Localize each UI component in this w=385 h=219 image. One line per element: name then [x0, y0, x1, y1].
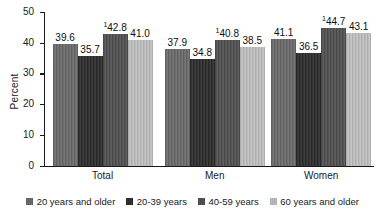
chart-legend: 20 years and older20-39 years40-59 years…: [0, 196, 385, 207]
bar-chart-figure: Percent 01020304050 39.635.7142.841.0Tot…: [0, 0, 385, 219]
bar-group: 41.136.5144.743.1Women: [268, 12, 374, 166]
legend-item[interactable]: 60 years and older: [270, 196, 359, 207]
bar: 41.1: [271, 39, 296, 165]
legend-label: 20-39 years: [137, 196, 187, 207]
y-tick-label: 10: [23, 130, 34, 140]
x-axis-category-label: Total: [44, 170, 161, 181]
bar-groups: 39.635.7142.841.0Total37.934.8140.838.5M…: [44, 12, 374, 166]
bar-value-label: 41.1: [274, 28, 293, 38]
bar-value-label: 34.8: [193, 48, 212, 58]
bar-value-label: 41.0: [130, 29, 149, 39]
legend-item[interactable]: 20-39 years: [126, 196, 187, 207]
plot-area: 01020304050 39.635.7142.841.0Total37.934…: [44, 12, 374, 167]
legend-item[interactable]: 20 years and older: [26, 196, 115, 207]
legend-label: 20 years and older: [37, 196, 116, 207]
bar-value-label: 144.7: [322, 17, 345, 27]
x-axis-line: [44, 166, 374, 167]
bar: 35.7: [78, 56, 103, 166]
y-tick-label: 0: [28, 161, 34, 171]
bar-group: 39.635.7142.841.0Total: [44, 12, 161, 166]
y-tick-label: 40: [23, 38, 34, 48]
bar-value-label: 38.5: [243, 36, 262, 46]
bar-value-label: 43.1: [349, 22, 368, 32]
bar-value-label: 37.9: [168, 38, 187, 48]
footnote-marker: 1: [216, 27, 220, 34]
bar: 43.1: [346, 33, 371, 165]
footnote-marker: 1: [322, 15, 326, 22]
bar: 39.6: [53, 44, 78, 166]
bar: 38.5: [240, 47, 265, 165]
footnote-marker: 1: [103, 21, 107, 28]
x-axis-category-label: Men: [161, 170, 268, 181]
bar-value-label: 140.8: [216, 29, 239, 39]
bar-value-label: 35.7: [80, 45, 99, 55]
bar: 144.7: [321, 28, 346, 165]
bar: 41.0: [128, 40, 153, 166]
bar-value-label: 142.8: [103, 23, 126, 33]
legend-swatch: [126, 198, 133, 205]
y-tick-label: 50: [23, 7, 34, 17]
y-tick: 0: [40, 166, 44, 167]
bar: 37.9: [165, 49, 190, 165]
y-axis-title: Percent: [9, 57, 20, 127]
bar-value-label: 39.6: [55, 33, 74, 43]
legend-swatch: [270, 198, 277, 205]
legend-label: 60 years and older: [280, 196, 359, 207]
bar-group: 37.934.8140.838.5Men: [161, 12, 268, 166]
x-axis-category-label: Women: [268, 170, 374, 181]
legend-item[interactable]: 40-59 years: [198, 196, 259, 207]
y-tick-label: 20: [23, 99, 34, 109]
bar: 36.5: [296, 53, 321, 165]
bar: 142.8: [103, 34, 128, 165]
legend-swatch: [26, 198, 33, 205]
legend-label: 40-59 years: [209, 196, 259, 207]
bar: 140.8: [215, 40, 240, 165]
bar: 34.8: [190, 59, 215, 166]
legend-swatch: [198, 198, 205, 205]
y-tick-label: 30: [23, 68, 34, 78]
bar-value-label: 36.5: [299, 42, 318, 52]
